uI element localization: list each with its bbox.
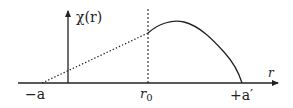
tick-label-r0: r0 bbox=[140, 86, 153, 103]
chi-function-diagram: χ(r) r −a r0 +a′ bbox=[0, 0, 293, 108]
dotted-extrapolation-line bbox=[42, 33, 148, 83]
x-axis-label: r bbox=[268, 66, 275, 80]
tick-label-plus-a-prime: +a′ bbox=[230, 87, 253, 103]
chi-curve bbox=[148, 21, 242, 83]
y-axis-label: χ(r) bbox=[76, 9, 102, 25]
tick-label-minus-a: −a bbox=[25, 86, 45, 102]
